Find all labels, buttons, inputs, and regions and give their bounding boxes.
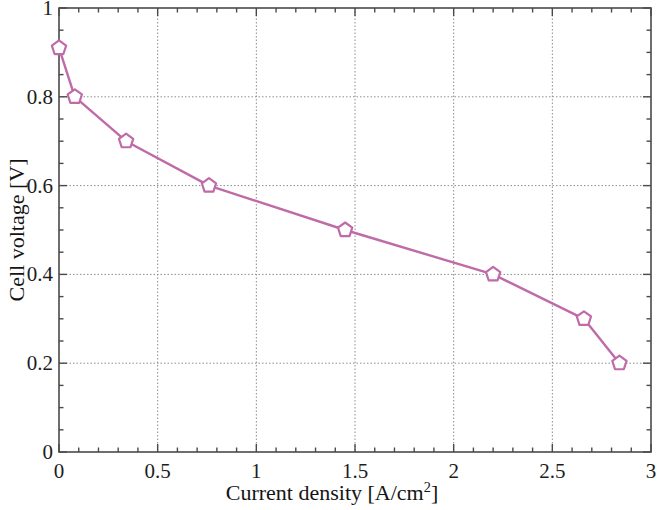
x-axis-title-suffix: ] xyxy=(431,480,438,505)
x-tick-label: 2 xyxy=(448,461,459,482)
y-axis-title: Cell voltage [V] xyxy=(6,159,28,302)
x-tick-label: 1 xyxy=(251,461,262,482)
polarization-curve-figure: 00.511.522.53 00.20.40.60.81 Current den… xyxy=(0,0,664,510)
x-tick-label: 3 xyxy=(646,461,657,482)
x-axis-title-base: Current density [A/cm xyxy=(226,480,424,505)
y-tick-label: 0 xyxy=(43,442,54,463)
y-tick-label: 0.6 xyxy=(27,175,53,196)
data-point-marker xyxy=(338,223,352,237)
data-point-marker xyxy=(68,89,82,103)
data-point-marker xyxy=(486,267,500,281)
y-tick-label: 0.8 xyxy=(27,86,53,107)
x-tick-label: 1.5 xyxy=(342,461,368,482)
data-series-group xyxy=(52,40,627,369)
y-tick-label: 0.4 xyxy=(27,264,53,285)
x-axis-title-exponent: 2 xyxy=(424,479,431,495)
y-tick-label: 0.2 xyxy=(27,353,53,374)
chart-canvas xyxy=(0,0,664,510)
x-tick-label: 0.5 xyxy=(145,461,171,482)
series-line xyxy=(59,48,619,363)
x-axis-title: Current density [A/cm2] xyxy=(0,482,664,504)
data-point-marker xyxy=(202,178,216,192)
y-axis-title-text: Cell voltage [V] xyxy=(6,159,28,302)
x-tick-label: 2.5 xyxy=(539,461,565,482)
x-tick-label: 0 xyxy=(54,461,65,482)
data-point-marker xyxy=(52,40,66,54)
y-tick-label: 1 xyxy=(43,0,54,19)
gridlines-group xyxy=(59,8,651,452)
data-point-marker xyxy=(577,311,591,325)
